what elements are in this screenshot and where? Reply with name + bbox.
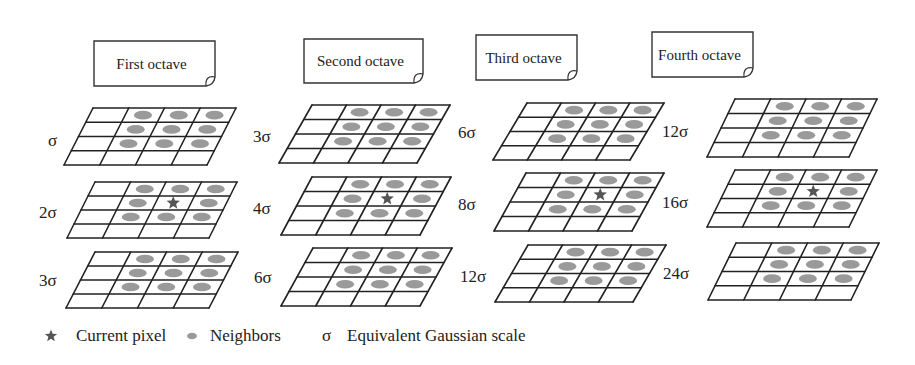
neighbor-pixel-icon xyxy=(599,176,617,185)
neighbor-pixel-icon xyxy=(599,106,617,115)
neighbor-pixel-icon xyxy=(411,122,429,131)
neighbor-pixel-icon xyxy=(422,251,440,260)
neighbor-pixel-icon xyxy=(200,199,218,208)
neighbor-pixel-icon xyxy=(344,265,362,274)
neighbor-pixel-icon xyxy=(847,173,865,182)
scale-label: 8σ xyxy=(458,195,476,214)
neighbor-pixel-icon xyxy=(777,246,795,255)
scale-label: 6σ xyxy=(254,268,272,287)
scale-layer-below: σ xyxy=(48,108,236,165)
neighbor-pixel-icon xyxy=(776,173,794,182)
neighbor-pixel-icon xyxy=(193,283,211,292)
sift-octave-diagram: First octaveσ2σ3σSecond octave3σ4σ6σThir… xyxy=(0,0,915,365)
scale-label: 2σ xyxy=(39,203,57,222)
neighbor-pixel-icon xyxy=(813,246,831,255)
neighbor-pixel-icon xyxy=(626,190,644,199)
neighbor-pixel-icon xyxy=(799,274,817,283)
neighbor-pixel-icon xyxy=(352,251,370,260)
scale-layer-above: 3σ xyxy=(39,252,238,308)
neighbor-pixel-icon xyxy=(636,248,654,257)
current-pixel-star-icon xyxy=(594,188,607,201)
neighbor-pixel-icon xyxy=(840,116,858,125)
current-pixel-star-icon xyxy=(167,196,180,209)
neighbor-pixel-icon xyxy=(558,262,576,271)
scale-layer-current: 16σ xyxy=(662,170,877,227)
scale-layer-current: 8σ xyxy=(458,173,664,231)
scale-label: 4σ xyxy=(253,199,271,218)
legend-label: Equivalent Gaussian scale xyxy=(347,326,525,345)
scale-layer-below: 3σ xyxy=(253,105,450,163)
neighbor-pixel-icon xyxy=(797,131,815,140)
neighbor-pixel-icon xyxy=(371,209,389,218)
neighbor-pixel-icon xyxy=(342,122,360,131)
octave-title: Second octave xyxy=(317,53,404,69)
neighbor-pixel-icon xyxy=(421,180,439,189)
neighbor-pixel-icon xyxy=(763,274,781,283)
neighbor-pixel-icon xyxy=(420,108,438,117)
neighbor-pixel-icon xyxy=(811,173,829,182)
neighbor-pixel-icon xyxy=(198,125,216,134)
neighbor-pixel-icon xyxy=(776,102,794,111)
neighbor-pixel-icon xyxy=(129,199,147,208)
neighbor-pixel-icon xyxy=(806,260,824,269)
neighbor-pixel-icon xyxy=(379,265,397,274)
neighbor-pixel-icon xyxy=(122,283,140,292)
neighbor-pixel-icon xyxy=(136,255,154,264)
legend-item: Current pixel xyxy=(45,326,167,345)
neighbor-pixel-icon xyxy=(565,106,583,115)
scale-layer-below: 6σ xyxy=(458,103,664,160)
neighbor-pixel-icon xyxy=(371,280,389,289)
neighbor-pixel-icon xyxy=(593,262,611,271)
neighbor-pixel-icon xyxy=(157,283,175,292)
neighbor-pixel-icon xyxy=(847,102,865,111)
scale-label: 3σ xyxy=(253,127,271,146)
neighbor-pixel-icon xyxy=(351,108,369,117)
scale-layer-current: 4σ xyxy=(253,177,451,235)
neighbor-pixel-icon xyxy=(385,108,403,117)
neighbor-pixel-icon xyxy=(762,131,780,140)
neighbor-pixel-icon xyxy=(336,209,354,218)
neighbor-pixel-icon xyxy=(618,205,636,214)
neighbor-pixel-icon xyxy=(129,269,147,278)
neighbor-pixel-icon xyxy=(206,111,224,120)
neighbor-pixel-icon xyxy=(548,134,566,143)
neighbor-pixel-icon xyxy=(565,176,583,185)
octave-title: First octave xyxy=(116,56,187,72)
neighbor-pixel-icon xyxy=(619,276,637,285)
neighbor-pixel-icon xyxy=(120,139,138,148)
octave-column-2: Second octave3σ4σ6σ xyxy=(253,39,452,306)
neighbor-pixel-icon xyxy=(387,251,405,260)
scale-label: 16σ xyxy=(662,193,688,212)
legend-item: σEquivalent Gaussian scale xyxy=(322,326,525,345)
neighbor-pixel-icon xyxy=(550,276,568,285)
scale-layer-current: 2σ xyxy=(39,182,237,238)
current-pixel-star-icon xyxy=(807,184,820,197)
neighbor-pixel-icon xyxy=(567,248,585,257)
octave-column-4: Fourth octave12σ16σ24σ xyxy=(652,32,879,300)
neighbor-pixel-icon xyxy=(601,248,619,257)
neighbor-pixel-icon xyxy=(634,176,652,185)
neighbor-pixel-icon xyxy=(165,269,183,278)
neighbor-pixel-icon xyxy=(769,116,787,125)
neighbor-pixel-icon xyxy=(549,205,567,214)
neighbor-pixel-icon xyxy=(386,180,404,189)
neighbor-pixel-icon xyxy=(634,106,652,115)
neighbor-pixel-icon xyxy=(835,274,853,283)
neighbor-pixel-icon xyxy=(403,137,421,146)
neighbor-pixel-icon xyxy=(769,187,787,196)
ellipse-icon xyxy=(187,333,197,340)
neighbor-pixel-icon xyxy=(582,134,600,143)
neighbor-pixel-icon xyxy=(377,122,395,131)
neighbor-pixel-icon xyxy=(770,260,788,269)
legend: Current pixelNeighborsσEquivalent Gaussi… xyxy=(45,326,526,345)
neighbor-pixel-icon xyxy=(134,111,152,120)
scale-layer-below: 12σ xyxy=(662,99,877,157)
neighbor-pixel-icon xyxy=(405,209,423,218)
star-icon xyxy=(45,330,57,342)
scale-label: σ xyxy=(48,131,57,150)
neighbor-pixel-icon xyxy=(127,125,145,134)
neighbor-pixel-icon xyxy=(849,246,867,255)
scale-label: 24σ xyxy=(663,264,689,283)
neighbor-pixel-icon xyxy=(351,180,369,189)
neighbor-pixel-icon xyxy=(208,255,226,264)
